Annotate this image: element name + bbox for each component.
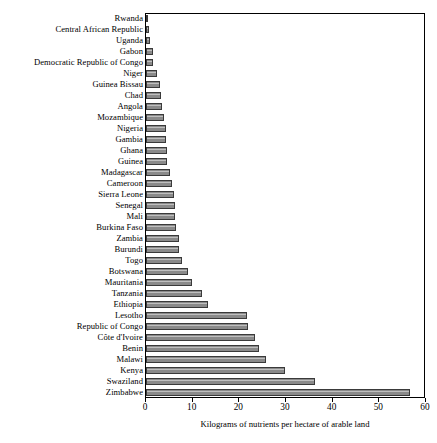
x-axis-tick-label: 40: [327, 402, 336, 412]
bar: [146, 158, 167, 164]
bar-row: Malawi: [0, 354, 437, 365]
bar-track: [146, 332, 425, 343]
bar-row: Sierra Leone: [0, 189, 437, 200]
category-label: Chad: [125, 90, 143, 101]
bar-track: [146, 321, 425, 332]
category-label: Central African Republic: [55, 24, 143, 35]
category-label: Burkina Faso: [96, 222, 143, 233]
category-label: Swaziland: [107, 376, 143, 387]
bar: [146, 356, 266, 362]
bar-track: [146, 211, 425, 222]
bar: [146, 367, 285, 373]
bar-row: Ghana: [0, 145, 437, 156]
x-axis-tick: [425, 398, 426, 402]
bar-row: Gabon: [0, 46, 437, 57]
category-label: Ghana: [120, 145, 143, 156]
bar-row: Kenya: [0, 365, 437, 376]
category-label: Côte d'Ivoire: [98, 332, 143, 343]
bar-track: [146, 365, 425, 376]
bar-row: Uganda: [0, 35, 437, 46]
bar-row: Nigeria: [0, 123, 437, 134]
bar-row: Ethiopia: [0, 299, 437, 310]
bar-row: Mauritania: [0, 277, 437, 288]
bar-row: Zimbabwe: [0, 387, 437, 398]
category-label: Guinea Bissau: [92, 79, 143, 90]
bar-row: Guinea: [0, 156, 437, 167]
bar: [146, 279, 192, 285]
x-axis-tick-label: 0: [143, 402, 148, 412]
bar-track: [146, 24, 425, 35]
x-axis-tick-label: 10: [187, 402, 196, 412]
bar: [146, 202, 175, 208]
category-label: Benin: [122, 343, 143, 354]
bar-row: Democratic Republic of Congo: [0, 57, 437, 68]
bar: [146, 224, 176, 230]
x-axis-tick: [378, 398, 379, 402]
category-label: Togo: [125, 255, 143, 266]
bar: [146, 180, 172, 186]
bar-row: Senegal: [0, 200, 437, 211]
bar-track: [146, 222, 425, 233]
bar: [146, 169, 170, 175]
category-label: Niger: [123, 68, 143, 79]
bar: [146, 70, 157, 76]
bar: [146, 26, 149, 32]
category-label: Mauritania: [105, 277, 143, 288]
bar: [146, 114, 164, 120]
bar: [146, 125, 166, 131]
bar-row: Botswana: [0, 266, 437, 277]
bar: [146, 301, 208, 307]
bar-track: [146, 79, 425, 90]
bar-track: [146, 266, 425, 277]
category-label: Uganda: [116, 35, 143, 46]
bar-row: Togo: [0, 255, 437, 266]
x-axis-title: Kilograms of nutrients per hectare of ar…: [145, 419, 425, 429]
bar-track: [146, 156, 425, 167]
bar-track: [146, 13, 425, 24]
bar-row: Burkina Faso: [0, 222, 437, 233]
bar: [146, 389, 410, 395]
bar-row: Mozambique: [0, 112, 437, 123]
bar-row: Chad: [0, 90, 437, 101]
x-axis-tick-label: 30: [280, 402, 289, 412]
bar: [146, 268, 188, 274]
x-axis-tick-label: 60: [420, 402, 429, 412]
bar: [146, 323, 248, 329]
category-label: Senegal: [115, 200, 143, 211]
bar: [146, 37, 150, 43]
bar-track: [146, 35, 425, 46]
bar-track: [146, 233, 425, 244]
x-axis-tick: [145, 398, 146, 402]
category-label: Cameroon: [107, 178, 143, 189]
bar-row: Rwanda: [0, 13, 437, 24]
bar-track: [146, 178, 425, 189]
category-label: Zambia: [116, 233, 143, 244]
bar-track: [146, 189, 425, 200]
bar: [146, 378, 315, 384]
x-axis-tick: [285, 398, 286, 402]
bar-track: [146, 277, 425, 288]
category-label: Rwanda: [115, 13, 143, 24]
bar: [146, 59, 153, 65]
bar-row: Cameroon: [0, 178, 437, 189]
bar: [146, 147, 167, 153]
bar-track: [146, 145, 425, 156]
bar: [146, 257, 182, 263]
bar: [146, 312, 247, 318]
category-label: Kenya: [120, 365, 143, 376]
category-label: Mozambique: [97, 112, 143, 123]
bar-track: [146, 200, 425, 211]
bar: [146, 136, 166, 142]
category-label: Republic of Congo: [77, 321, 143, 332]
category-label: Gabon: [120, 46, 143, 57]
bar-track: [146, 299, 425, 310]
bar-track: [146, 68, 425, 79]
category-label: Tanzania: [112, 288, 143, 299]
bar-row: Central African Republic: [0, 24, 437, 35]
category-label: Angola: [117, 101, 143, 112]
bar-track: [146, 167, 425, 178]
bar-track: [146, 376, 425, 387]
bar-track: [146, 112, 425, 123]
category-label: Guinea: [118, 156, 143, 167]
bar-track: [146, 310, 425, 321]
